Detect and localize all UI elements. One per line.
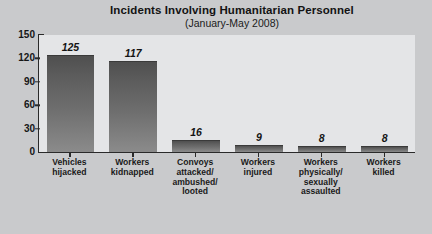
x-axis-category-label: Vehicles hijacked (38, 158, 101, 178)
bar[interactable] (172, 140, 220, 152)
bar[interactable] (47, 55, 95, 153)
y-axis-tick-label: 120 (18, 53, 35, 63)
page-title: Incidents Involving Humanitarian Personn… (34, 3, 430, 17)
bar-slot: 125 (39, 35, 102, 152)
y-axis-tick-label: 0 (29, 147, 35, 157)
plot-area: 0306090120150 12511716988 (38, 35, 415, 153)
x-axis-category-label: Workers killed (352, 158, 415, 178)
bar-slot: 9 (228, 35, 291, 152)
bar-slot: 8 (353, 35, 416, 152)
chart-subtitle: (January-May 2008) (34, 17, 430, 30)
bar-value-label: 8 (353, 133, 416, 144)
bar[interactable] (298, 146, 346, 152)
x-axis-category-label: Convoys attacked/ ambushed/ looted (164, 158, 227, 197)
bar-series: 12511716988 (39, 35, 415, 152)
bar-slot: 16 (165, 35, 228, 152)
y-axis-tick-label: 60 (24, 100, 35, 110)
bar-value-label: 125 (39, 42, 102, 53)
chart-title-block: Incidents Involving Humanitarian Personn… (34, 3, 430, 30)
bar-slot: 117 (102, 35, 165, 152)
y-axis-tick-label: 30 (24, 124, 35, 134)
bar-slot: 8 (290, 35, 353, 152)
footer-cutoff-strip (0, 227, 432, 234)
bar-value-label: 9 (228, 132, 291, 143)
bar-value-label: 16 (165, 127, 228, 138)
bar-chart-figure: Incidents Involving Humanitarian Personn… (0, 0, 432, 234)
bar-value-label: 117 (102, 48, 165, 59)
bar[interactable] (235, 145, 283, 152)
bar[interactable] (109, 61, 157, 152)
x-axis-category-label: Workers kidnapped (101, 158, 164, 178)
bar[interactable] (361, 146, 409, 152)
y-axis-tick-label: 150 (18, 30, 35, 40)
x-axis-category-label: Workers physically/ sexually assaulted (289, 158, 352, 197)
x-axis-category-label: Workers injured (227, 158, 290, 178)
bar-value-label: 8 (290, 133, 353, 144)
y-axis-tick-label: 90 (24, 77, 35, 87)
